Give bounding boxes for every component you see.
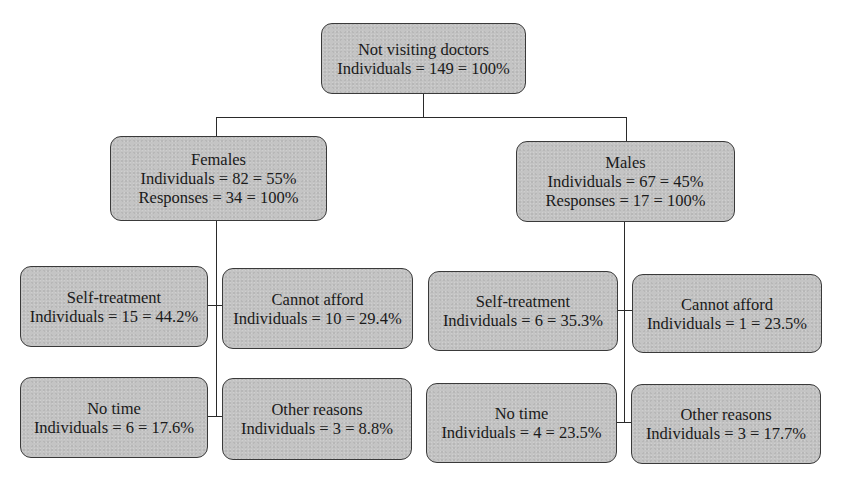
node-females-other-reasons: Other reasons Individuals = 3 = 8.8% <box>222 378 412 460</box>
node-individuals: Individuals = 149 = 100% <box>337 59 510 78</box>
node-title: Females <box>191 150 246 169</box>
node-title: Other reasons <box>680 405 771 424</box>
node-individuals: Individuals = 4 = 23.5% <box>441 423 601 442</box>
node-title: No time <box>495 404 549 423</box>
node-title: No time <box>87 399 141 418</box>
node-title: Self-treatment <box>476 292 570 311</box>
node-individuals: Individuals = 82 = 55% <box>140 169 296 188</box>
node-title: Males <box>605 153 645 172</box>
connector-to-females <box>216 117 217 137</box>
connector-root-horizontal <box>216 117 627 118</box>
node-males-cannot-afford: Cannot afford Individuals = 1 = 23.5% <box>632 274 822 353</box>
node-individuals: Individuals = 6 = 35.3% <box>443 311 603 330</box>
node-responses: Responses = 17 = 100% <box>546 191 706 210</box>
node-females-no-time: No time Individuals = 6 = 17.6% <box>20 377 208 458</box>
node-title: Cannot afford <box>681 295 773 314</box>
connector-to-males <box>626 117 627 142</box>
node-individuals: Individuals = 6 = 17.6% <box>34 418 194 437</box>
node-individuals: Individuals = 15 = 44.2% <box>30 307 198 326</box>
node-individuals: Individuals = 10 = 29.4% <box>233 309 401 328</box>
node-males-self-treatment: Self-treatment Individuals = 6 = 35.3% <box>428 271 618 351</box>
node-males-no-time: No time Individuals = 4 = 23.5% <box>426 383 617 463</box>
node-females: Females Individuals = 82 = 55% Responses… <box>110 136 327 221</box>
connector-males-spine <box>624 221 625 423</box>
node-title: Cannot afford <box>272 290 364 309</box>
node-males: Males Individuals = 67 = 45% Responses =… <box>516 141 735 222</box>
connector-females-row2 <box>207 416 223 417</box>
node-individuals: Individuals = 3 = 17.7% <box>646 424 806 443</box>
node-individuals: Individuals = 67 = 45% <box>547 172 703 191</box>
connector-males-row1 <box>616 310 633 311</box>
connector-root-down <box>423 93 424 118</box>
node-title: Not visiting doctors <box>358 40 489 59</box>
node-title: Self-treatment <box>67 288 161 307</box>
node-responses: Responses = 34 = 100% <box>139 188 299 207</box>
node-individuals: Individuals = 3 = 8.8% <box>241 419 393 438</box>
node-not-visiting-doctors: Not visiting doctors Individuals = 149 =… <box>321 23 526 94</box>
connector-females-spine <box>216 220 217 417</box>
node-males-other-reasons: Other reasons Individuals = 3 = 17.7% <box>631 384 821 464</box>
node-females-self-treatment: Self-treatment Individuals = 15 = 44.2% <box>20 266 208 347</box>
node-individuals: Individuals = 1 = 23.5% <box>647 314 807 333</box>
node-title: Other reasons <box>271 400 362 419</box>
diagram-canvas: Not visiting doctors Individuals = 149 =… <box>0 0 843 484</box>
node-females-cannot-afford: Cannot afford Individuals = 10 = 29.4% <box>222 268 413 349</box>
connector-females-row1 <box>207 305 223 306</box>
